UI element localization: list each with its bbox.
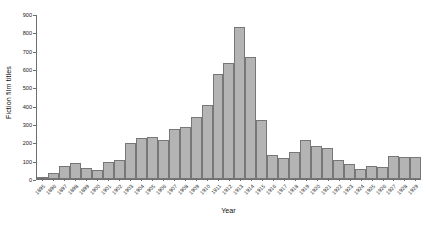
bar-column (344, 15, 355, 179)
x-tick-mark (415, 178, 416, 181)
y-tick-label: 900 (23, 12, 32, 18)
bar (267, 155, 278, 179)
x-tick-mark (174, 178, 175, 181)
y-tick-mark (33, 143, 36, 144)
x-tick-label: 1929 (407, 183, 420, 196)
x-tick-mark (361, 178, 362, 181)
x-tick-mark (130, 178, 131, 181)
x-tick-mark (273, 178, 274, 181)
x-tick-mark (240, 178, 241, 181)
x-tick-mark (284, 178, 285, 181)
y-tick-mark (33, 70, 36, 71)
y-tick-mark (33, 125, 36, 126)
bar (234, 27, 245, 179)
x-tick-label: 1911 (210, 183, 222, 195)
x-tick-label: 1922 (330, 183, 343, 196)
x-tick-mark (207, 178, 208, 181)
bar-column (180, 15, 191, 179)
x-tick-mark (185, 178, 186, 181)
bar (289, 152, 300, 179)
y-tick-mark (33, 33, 36, 34)
x-tick: 1914 (245, 181, 256, 207)
x-tick-label: 1899 (78, 183, 91, 196)
bar (322, 148, 333, 179)
x-tick-label: 1903 (122, 183, 135, 196)
x-tick: 1929 (410, 181, 421, 207)
x-tick: 1899 (81, 181, 92, 207)
bar-column (311, 15, 322, 179)
bar-column (114, 15, 125, 179)
bar (344, 164, 355, 179)
x-tick: 1907 (169, 181, 180, 207)
x-tick-label: 1902 (111, 183, 124, 196)
y-axis-title: Fiction film titles (2, 0, 16, 185)
y-tick-label: 600 (23, 67, 32, 73)
x-tick-label: 1912 (221, 183, 234, 196)
x-axis-title: Year (36, 206, 421, 215)
x-tick-mark (163, 178, 164, 181)
bar-column (410, 15, 421, 179)
bar-column (213, 15, 224, 179)
bar-column (333, 15, 344, 179)
bar-column (136, 15, 147, 179)
x-tick-label: 1900 (89, 183, 102, 196)
x-tick-mark (119, 178, 120, 181)
x-tick: 1904 (136, 181, 147, 207)
bar-column (267, 15, 278, 179)
x-tick: 1920 (311, 181, 322, 207)
bar-column (169, 15, 180, 179)
x-tick-mark (328, 178, 329, 181)
bar-column (48, 15, 59, 179)
bar (136, 138, 147, 179)
bar-column (59, 15, 70, 179)
x-tick: 1910 (202, 181, 213, 207)
x-tick-mark (404, 178, 405, 181)
x-tick: 1923 (344, 181, 355, 207)
bar (223, 63, 234, 179)
x-tick: 1895 (37, 181, 48, 207)
bar-column (70, 15, 81, 179)
y-tick-label: 400 (23, 104, 32, 110)
x-tick-mark (295, 178, 296, 181)
bar-column (191, 15, 202, 179)
x-tick-label: 1907 (166, 183, 179, 196)
x-tick-mark (86, 178, 87, 181)
bar-column (125, 15, 136, 179)
x-tick: 1918 (289, 181, 300, 207)
bar (245, 57, 256, 179)
x-tick-mark (229, 178, 230, 181)
bar-column (103, 15, 114, 179)
x-tick-mark (350, 178, 351, 181)
bar (180, 127, 191, 179)
x-tick-label: 1915 (254, 183, 267, 196)
x-tick: 1900 (92, 181, 103, 207)
bar (410, 157, 421, 179)
x-tick-mark (393, 178, 394, 181)
x-tick-label: 1916 (264, 183, 277, 196)
bar (70, 163, 81, 179)
bar-column (377, 15, 388, 179)
x-tick-label: 1906 (155, 183, 168, 196)
bar-column (147, 15, 158, 179)
bar-column (223, 15, 234, 179)
x-tick-mark (339, 178, 340, 181)
x-tick: 1919 (300, 181, 311, 207)
x-tick: 1921 (322, 181, 333, 207)
y-tick-mark (33, 88, 36, 89)
x-tick-label: 1904 (133, 183, 146, 196)
x-tick: 1901 (103, 181, 114, 207)
x-tick: 1898 (70, 181, 81, 207)
bar-column (37, 15, 48, 179)
x-tick-mark (75, 178, 76, 181)
bar (311, 146, 322, 179)
bar-chart-figure: Fiction film titles 01002003004005006007… (0, 0, 437, 225)
x-tick-mark (306, 178, 307, 181)
bar (388, 156, 399, 179)
y-tick-label: 0 (29, 177, 32, 183)
x-tick-mark (53, 178, 54, 181)
x-tick-label: 1919 (297, 183, 310, 196)
bar-column (289, 15, 300, 179)
x-tick-label: 1913 (232, 183, 245, 196)
x-tick: 1902 (114, 181, 125, 207)
bar (191, 117, 202, 179)
